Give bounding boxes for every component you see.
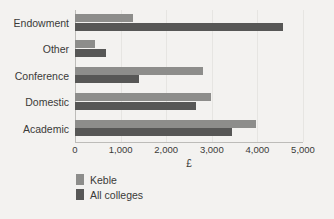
bar-group: Conference [75,63,303,89]
gridline [303,10,304,142]
x-tick-label: 3,000 [200,144,224,155]
x-tick-label: 4,000 [246,144,270,155]
bar-group: Academic [75,116,303,142]
x-axis-line [75,142,303,143]
plot-area: EndowmentOtherConferenceDomesticAcademic [75,10,303,142]
category-label: Academic [23,116,75,142]
legend-swatch-icon [76,189,84,200]
bar-all-colleges [75,102,196,110]
bar-keble [75,93,211,101]
x-tick-label: 1,000 [109,144,133,155]
x-tick-label: 5,000 [291,144,315,155]
legend-item: Keble [76,172,143,187]
legend-label: Keble [90,174,117,186]
bar-all-colleges [75,128,232,136]
legend-label: All colleges [90,189,143,201]
bar-keble [75,14,133,22]
bar-all-colleges [75,49,106,57]
legend: KebleAll colleges [76,172,143,202]
category-label: Domestic [25,89,75,115]
bar-chart: EndowmentOtherConferenceDomesticAcademic… [0,0,334,219]
bar-all-colleges [75,23,283,31]
bar-group: Domestic [75,89,303,115]
x-tick-label: 2,000 [154,144,178,155]
x-axis-label: £ [75,158,303,169]
bar-all-colleges [75,75,139,83]
category-label: Conference [15,63,75,89]
bar-keble [75,120,256,128]
x-tick-label: 0 [72,144,77,155]
legend-item: All colleges [76,187,143,202]
bar-group: Endowment [75,10,303,36]
legend-swatch-icon [76,174,84,185]
bar-group: Other [75,36,303,62]
bar-keble [75,67,203,75]
category-label: Endowment [14,10,75,36]
category-label: Other [43,36,75,62]
bar-keble [75,40,95,48]
